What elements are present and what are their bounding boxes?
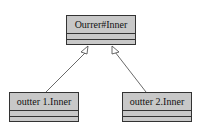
generalization-arrow-icon bbox=[112, 46, 119, 54]
class-child-2[interactable]: outter 2.Inner bbox=[122, 92, 192, 122]
class-child-1[interactable]: outter 1.Inner bbox=[9, 92, 79, 122]
class-parent[interactable]: Ourrer#Inner bbox=[66, 15, 136, 45]
generalization-arrow-icon bbox=[81, 46, 88, 54]
methods-compartment bbox=[67, 40, 135, 45]
class-name: outter 1.Inner bbox=[10, 93, 78, 111]
class-name: Ourrer#Inner bbox=[67, 16, 135, 34]
methods-compartment bbox=[123, 117, 191, 122]
methods-compartment bbox=[10, 117, 78, 122]
class-name: outter 2.Inner bbox=[123, 93, 191, 111]
